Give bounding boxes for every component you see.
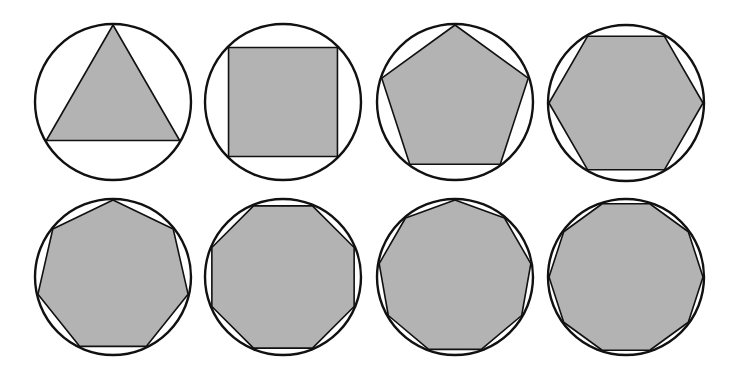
polygon-figure	[0, 0, 741, 376]
inscribed-heptagon	[35, 199, 191, 355]
pentagon-polygon	[382, 25, 528, 164]
square-polygon	[229, 48, 338, 157]
hexagon-polygon	[549, 36, 703, 169]
inscribed-polygons-diagram	[0, 0, 741, 376]
inscribed-triangle	[35, 24, 191, 180]
inscribed-square	[205, 24, 361, 180]
inscribed-hexagon	[548, 25, 704, 181]
heptagon-polygon	[38, 200, 188, 346]
inscribed-nonagon	[377, 199, 533, 355]
octagon-polygon	[212, 206, 354, 348]
triangle-polygon	[46, 25, 179, 141]
inscribed-decagon	[548, 199, 704, 355]
nonagon-polygon	[379, 200, 531, 349]
inscribed-pentagon	[377, 24, 533, 180]
inscribed-octagon	[205, 199, 361, 355]
decagon-polygon	[549, 204, 703, 350]
